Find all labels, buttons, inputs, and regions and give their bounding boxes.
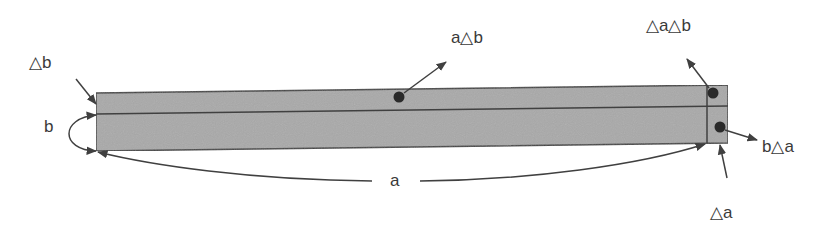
label-delta-a-text: △a (710, 203, 732, 222)
label-delta-a-delta-b: △a△b (646, 17, 691, 34)
arrow-b-delta-a (725, 130, 757, 140)
label-delta-a: △a (710, 204, 732, 221)
label-delta-a-delta-b-text: △a△b (646, 16, 691, 35)
label-b-delta-a: b△a (762, 138, 794, 155)
arrow-a-width-right (420, 144, 705, 181)
arrow-b-height (69, 115, 96, 151)
label-b-delta-a-text: b△a (762, 137, 794, 156)
label-a-text: a (390, 171, 399, 190)
arrow-a-width-left (98, 152, 372, 181)
label-a-delta-b: a△b (451, 29, 483, 46)
outer-rectangle (96, 85, 728, 151)
label-a-delta-b-text: a△b (451, 28, 483, 47)
label-delta-b: △b (29, 54, 51, 71)
arrow-delta-a (720, 145, 727, 178)
product-rule-diagram (0, 0, 829, 239)
arrow-delta-b (76, 79, 96, 104)
arrow-delta-a-delta-b (687, 59, 709, 88)
dot-delta-a-delta-b (708, 88, 719, 99)
label-a: a (390, 172, 399, 189)
label-b: b (44, 118, 53, 135)
dot-a-delta-b (394, 92, 405, 103)
label-delta-b-text: △b (29, 53, 51, 72)
label-b-text: b (44, 117, 53, 136)
dot-b-delta-a (715, 122, 726, 133)
